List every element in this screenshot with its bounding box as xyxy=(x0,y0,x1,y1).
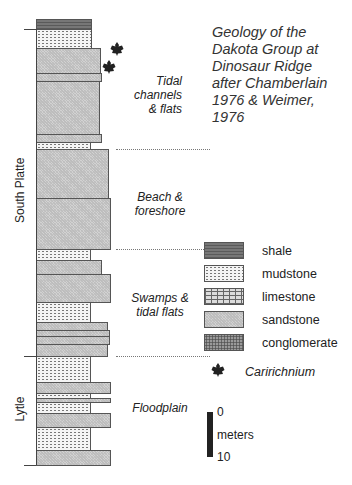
legend-swatch-shale xyxy=(204,242,244,259)
env-line: channels xyxy=(112,88,182,102)
title-line: after Chamberlain xyxy=(212,75,352,92)
environment-label-floodplain: Floodplain xyxy=(115,401,205,415)
legend-swatch-sandstone xyxy=(204,311,244,328)
legend-label-shale: shale xyxy=(262,244,292,258)
legend-label-caririchnium: Caririchnium xyxy=(245,365,315,379)
env-line: tidal flats xyxy=(115,305,205,319)
layer-mudstone xyxy=(36,29,92,49)
layer-sandstone xyxy=(36,274,111,303)
layer-mudstone xyxy=(36,356,91,383)
env-line: Beach & xyxy=(120,190,200,204)
legend-label-sandstone: sandstone xyxy=(262,313,320,327)
legend-swatch-limestone xyxy=(204,288,244,305)
layer-sandstone xyxy=(36,81,100,135)
formation-boundary-tick xyxy=(24,356,36,357)
formation-label-south-platte: South Platte xyxy=(13,163,27,223)
bottom-boundary-tick xyxy=(24,465,36,466)
scale-bar xyxy=(207,412,213,457)
title-line: Geology of the xyxy=(212,24,352,41)
env-line: & flats xyxy=(112,102,182,116)
layer-mudstone xyxy=(36,302,91,323)
formation-label-lytle: Lytle xyxy=(13,389,27,429)
legend-swatch-mudstone xyxy=(204,265,244,282)
environment-label-tidal-channels: Tidal channels & flats xyxy=(112,74,182,116)
environment-divider-2 xyxy=(116,249,210,250)
env-line: Floodplain xyxy=(115,401,205,415)
dinosaur-track-icon xyxy=(109,41,125,57)
title-line: Dinosaur Ridge xyxy=(212,58,352,75)
title-line: Dakota Group at xyxy=(212,41,352,58)
top-boundary-tick xyxy=(24,29,36,30)
layer-sandstone xyxy=(36,149,109,199)
layer-sandstone xyxy=(36,260,102,275)
dinosaur-track-icon xyxy=(210,362,226,378)
environment-divider-1 xyxy=(116,149,210,150)
scale-label-bottom: 10 xyxy=(217,451,230,464)
diagram-title: Geology of the Dakota Group at Dinosaur … xyxy=(212,24,352,126)
environment-divider-3 xyxy=(116,356,210,357)
layer-sandstone xyxy=(36,198,111,250)
layer-sandstone xyxy=(36,450,111,466)
legend-swatch-conglomerate xyxy=(204,334,244,351)
layer-sandstone xyxy=(36,413,111,428)
title-line: 1976 & Weimer, xyxy=(212,92,352,109)
environment-label-beach-foreshore: Beach & foreshore xyxy=(120,190,200,218)
env-line: foreshore xyxy=(120,204,200,218)
env-line: Tidal xyxy=(112,74,182,88)
column-axis-line xyxy=(36,29,37,465)
scale-label-unit: meters xyxy=(217,429,254,442)
layer-sandstone xyxy=(36,48,101,74)
layer-mudstone xyxy=(36,427,91,451)
dinosaur-track-icon xyxy=(101,59,117,75)
legend-label-limestone: limestone xyxy=(262,290,316,304)
title-line: 1976 xyxy=(212,109,352,126)
env-line: Swamps & xyxy=(115,291,205,305)
scale-label-top: 0 xyxy=(217,406,224,419)
legend-label-conglomerate: conglomerate xyxy=(262,336,338,350)
legend-label-mudstone: mudstone xyxy=(262,267,317,281)
environment-label-swamps-tidal-flats: Swamps & tidal flats xyxy=(115,291,205,319)
